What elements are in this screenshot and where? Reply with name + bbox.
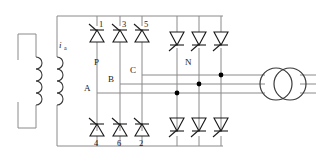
label-thyristor-1: 1 [99, 19, 103, 29]
source-transformer [36, 57, 63, 105]
left-bridge-upper-legs [97, 42, 142, 131]
node-dot [175, 91, 180, 96]
label-thyristor-3: 3 [122, 19, 126, 29]
label-phase-b: B [108, 74, 114, 84]
schematic-svg: i a P N C B A 1 3 5 4 6 2 [0, 0, 316, 162]
label-thyristor-5: 5 [144, 19, 148, 29]
label-thyristor-6: 6 [117, 138, 121, 148]
label-rail-p: P [94, 57, 99, 67]
label-rail-n: N [185, 57, 192, 67]
source-primary-loop [18, 34, 36, 128]
node-dot [219, 73, 224, 78]
transformer-primary-coil [36, 57, 42, 105]
circuit-diagram-canvas: i a P N C B A 1 3 5 4 6 2 [0, 0, 316, 162]
transformer-secondary-coil [57, 57, 63, 105]
output-transformer [260, 68, 306, 100]
node-dot [197, 82, 202, 87]
right-bridge-legs [177, 16, 221, 146]
label-phase-c: C [130, 65, 136, 75]
left-bridge-top-group [89, 24, 149, 42]
label-thyristor-2: 2 [139, 138, 143, 148]
wire-network [18, 16, 316, 146]
label-current-ia: i [59, 40, 62, 50]
label-current-ia-sub: a [64, 45, 67, 51]
left-bridge-bottom-group [89, 118, 149, 136]
transformer-output-lines [300, 75, 316, 93]
label-phase-a: A [84, 83, 91, 93]
